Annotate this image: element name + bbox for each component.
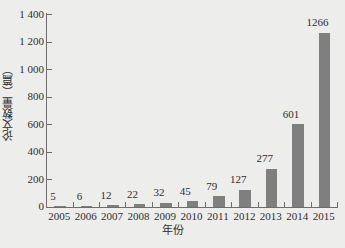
y-tick-label-1400: 1 400 [0, 9, 44, 20]
bar-value-2013: 277 [249, 153, 281, 164]
bar-value-2012: 127 [222, 174, 254, 185]
bar-value-2015: 1266 [302, 17, 334, 28]
x-axis-tick [258, 202, 259, 207]
bar-2008 [134, 204, 146, 207]
bar-2009 [160, 203, 172, 207]
x-axis-tick [205, 202, 206, 207]
y-axis-tick-label: 1 400 [2, 9, 44, 20]
bar-2005 [54, 206, 66, 207]
bar-2014 [292, 124, 304, 207]
bar-2010 [187, 201, 199, 207]
y-tick-label-1000: 1 000 [0, 64, 44, 75]
bar-chart: 论文数量（篇） 1 400 1 200 1 000 800 600 400 20… [0, 0, 345, 248]
y-axis-tick-label: 600 [2, 119, 44, 130]
y-axis-tick-label: 400 [2, 146, 44, 157]
x-axis-tick [73, 202, 74, 207]
y-axis-tick-label: 200 [2, 174, 44, 185]
y-axis-tick-label: 0 [2, 201, 44, 212]
y-axis-tick-label: 1 200 [2, 36, 44, 47]
x-axis-title: 年份 [0, 224, 345, 237]
y-tick-label-0: 0 [0, 201, 44, 212]
x-axis-tick [284, 202, 285, 207]
x-axis-tick [99, 202, 100, 207]
x-axis-line [46, 207, 338, 208]
bar-value-2014: 601 [275, 109, 307, 120]
x-axis-tick [46, 202, 47, 207]
y-tick-label-200: 200 [0, 174, 44, 185]
y-axis-tick-label: 1 000 [2, 64, 44, 75]
x-axis-tick [337, 202, 338, 207]
bar-2006 [81, 206, 93, 207]
bar-2012 [239, 190, 251, 208]
x-axis-tick [152, 202, 153, 207]
bar-2013 [266, 169, 278, 207]
x-axis-tick [231, 202, 232, 207]
bar-2015 [319, 33, 331, 208]
y-tick-label-800: 800 [0, 91, 44, 102]
bar-2007 [107, 205, 119, 207]
bar-2011 [213, 196, 225, 207]
y-tick-label-400: 400 [0, 146, 44, 157]
y-tick-label-1200: 1 200 [0, 36, 44, 47]
y-axis-tick-label: 800 [2, 91, 44, 102]
x-axis-label-2015: 2015 [307, 210, 341, 223]
y-tick-label-600: 600 [0, 119, 44, 130]
x-axis-tick [178, 202, 179, 207]
x-axis-tick [125, 202, 126, 207]
x-axis-tick [311, 202, 312, 207]
